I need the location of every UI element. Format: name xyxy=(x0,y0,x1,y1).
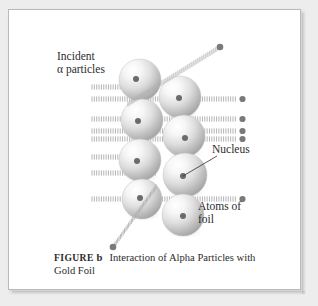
label-incident-alpha-particles: Incidentα particles xyxy=(57,50,105,76)
exit-particle-4 xyxy=(239,136,245,142)
nucleus-text: Nucleus xyxy=(212,143,250,155)
figure-root: Incidentα particles Nucleus Atoms offoil… xyxy=(0,0,318,306)
atoms-line-1: Atoms of xyxy=(198,200,241,212)
atom-5 xyxy=(163,153,207,200)
atom-nucleus-4 xyxy=(134,158,140,164)
atom-nucleus-2 xyxy=(135,118,141,124)
atom-nucleus-0 xyxy=(133,76,139,82)
label-nucleus: Nucleus xyxy=(212,143,250,156)
atom-layer xyxy=(119,59,207,239)
atoms-line-2: foil xyxy=(198,213,214,225)
exit-particle-2 xyxy=(239,116,245,122)
caption-figure-letter: b xyxy=(96,252,102,263)
atom-nucleus-6 xyxy=(137,195,143,201)
panel-shadow-right xyxy=(302,13,306,294)
rutherford-diagram xyxy=(8,9,301,290)
deflected-particle-0 xyxy=(217,44,224,51)
atom-sphere-4 xyxy=(119,139,161,181)
alpha-beam-2 xyxy=(92,116,235,121)
incident-line-1: Incident xyxy=(57,50,95,62)
atom-nucleus-3 xyxy=(182,135,188,141)
atom-nucleus-1 xyxy=(176,95,182,101)
exit-particle-3 xyxy=(239,128,245,134)
atom-4 xyxy=(119,139,161,184)
incident-line-2: α particles xyxy=(57,63,105,75)
atom-nucleus-7 xyxy=(180,213,186,219)
atom-1 xyxy=(159,76,201,121)
exit-particle-1 xyxy=(239,96,245,102)
label-atoms-of-foil: Atoms offoil xyxy=(198,200,241,226)
atom-2 xyxy=(121,99,163,144)
caption-figure-word: FIGURE xyxy=(54,252,94,263)
figure-caption: FIGURE bInteraction of Alpha Particles w… xyxy=(54,251,279,278)
atom-sphere-2 xyxy=(121,99,163,141)
panel-shadow-bottom xyxy=(12,291,305,295)
caption-title-line-1: Interaction of Alpha Particles xyxy=(109,252,233,263)
deflected-particle-1 xyxy=(110,244,117,251)
